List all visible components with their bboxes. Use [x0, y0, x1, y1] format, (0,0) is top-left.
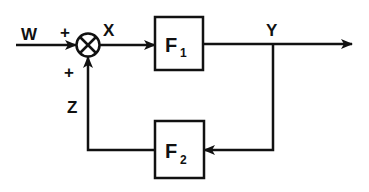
label-z: Z — [67, 98, 77, 117]
feedback-branch-line — [204, 44, 273, 150]
forward-block-subscript: 1 — [180, 46, 187, 60]
feedback-block: F 2 — [155, 121, 204, 178]
forward-block: F 1 — [155, 17, 203, 70]
sign-plus-bottom: + — [64, 63, 74, 82]
label-x: X — [103, 21, 115, 40]
label-y: Y — [266, 21, 278, 40]
summing-junction — [77, 34, 100, 57]
forward-block-name: F — [165, 34, 177, 56]
sign-plus-top: + — [60, 23, 70, 42]
label-w: W — [21, 25, 38, 44]
block-diagram: W + X F 1 Y F 2 + Z — [0, 0, 369, 192]
feedback-return-line — [88, 57, 155, 150]
feedback-block-subscript: 2 — [180, 153, 187, 167]
feedback-block-name: F — [165, 140, 177, 162]
